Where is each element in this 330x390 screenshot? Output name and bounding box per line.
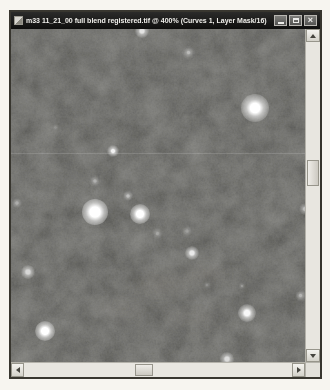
scroll-left-button[interactable] — [11, 363, 24, 377]
photoshop-file-icon — [14, 16, 23, 25]
scroll-down-button[interactable] — [306, 349, 320, 362]
minimize-button[interactable] — [274, 15, 287, 26]
arrow-down-icon — [310, 354, 316, 358]
vertical-scrollbar-thumb[interactable] — [307, 160, 319, 186]
scroll-right-button[interactable] — [292, 363, 305, 377]
arrow-left-icon — [16, 367, 20, 373]
arrow-right-icon — [297, 367, 301, 373]
window-controls: × — [274, 15, 317, 26]
close-button[interactable]: × — [304, 15, 317, 26]
star-noise-texture — [11, 29, 305, 362]
photoshop-document-window: m33 11_21_00 full blend registered.tif @… — [9, 10, 322, 379]
arrow-up-icon — [310, 34, 316, 38]
minimize-icon — [278, 22, 284, 24]
close-icon: × — [308, 16, 313, 25]
window-title: m33 11_21_00 full blend registered.tif @… — [26, 12, 271, 29]
image-canvas[interactable] — [11, 29, 305, 362]
window-titlebar[interactable]: m33 11_21_00 full blend registered.tif @… — [11, 12, 320, 29]
restore-button[interactable] — [289, 15, 302, 26]
restore-icon — [293, 18, 299, 23]
horizontal-scrollbar[interactable] — [11, 362, 305, 377]
scrollbar-corner — [305, 362, 320, 377]
vertical-scrollbar[interactable] — [305, 29, 320, 362]
scroll-up-button[interactable] — [306, 29, 320, 42]
document-content — [11, 29, 320, 377]
horizontal-scrollbar-thumb[interactable] — [135, 364, 153, 376]
